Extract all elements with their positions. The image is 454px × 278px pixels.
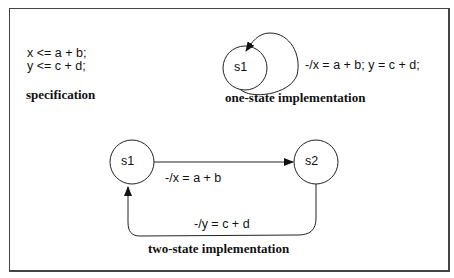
one-state-s1-label: s1 xyxy=(234,61,247,74)
one-state-transition-label: -/x = a + b; y = c + d; xyxy=(305,59,420,72)
transition-s1-s2-label: -/x = a + b xyxy=(165,172,221,185)
two-state-s2-label: s2 xyxy=(305,155,318,168)
spec-caption: specification xyxy=(26,88,95,101)
diagram-graphics xyxy=(0,0,454,278)
spec-line-2: y <= c + d; xyxy=(27,60,86,73)
two-state-caption: two-state implementation xyxy=(148,242,289,255)
transition-s2-s1-label: -/y = c + d xyxy=(194,218,250,231)
two-state-s1-label: s1 xyxy=(121,155,134,168)
one-state-caption: one-state implementation xyxy=(225,91,365,104)
one-state-self-loop xyxy=(240,33,298,95)
